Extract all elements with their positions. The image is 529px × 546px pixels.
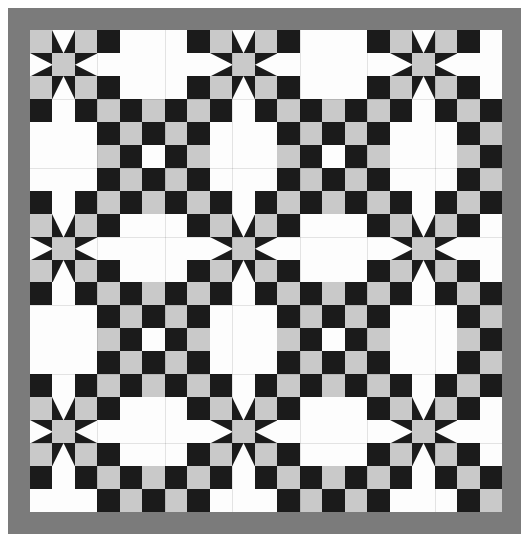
flying-geese-down: [232, 214, 255, 238]
patch-black: [165, 374, 188, 398]
flying-geese-down: [412, 214, 435, 238]
patch-white: [480, 53, 502, 77]
patch-black: [120, 374, 143, 398]
patch-gray: [345, 305, 368, 329]
patch-black: [367, 214, 390, 238]
patch-black: [367, 305, 390, 329]
patch-black: [165, 145, 188, 169]
patch-black: [142, 351, 165, 375]
flying-geese-up: [412, 260, 435, 284]
patch-white: [367, 53, 390, 77]
patch-gray: [390, 214, 413, 238]
patch-white: [300, 30, 323, 54]
flying-geese-left: [255, 420, 278, 444]
patch-white: [300, 237, 323, 261]
patch-black: [457, 489, 480, 512]
patch-white: [187, 237, 210, 261]
patch-white: [232, 305, 255, 329]
patch-gray: [480, 489, 502, 512]
patch-white: [210, 351, 233, 375]
flying-geese-left: [435, 237, 458, 261]
patch-white: [75, 305, 98, 329]
patch-black: [30, 282, 53, 306]
patch-white: [142, 328, 165, 352]
patch-black: [435, 466, 458, 490]
patch-white: [480, 397, 502, 421]
patch-black: [142, 122, 165, 146]
patch-white: [412, 191, 435, 215]
patch-gray: [255, 260, 278, 284]
patch-white: [142, 420, 165, 444]
patch-gray: [210, 214, 233, 238]
seam-line-vertical: [367, 30, 368, 512]
patch-white: [97, 53, 120, 77]
patch-white: [165, 397, 188, 421]
patch-white: [165, 214, 188, 238]
patch-black: [75, 282, 98, 306]
patch-gray: [97, 374, 120, 398]
patch-gray: [97, 328, 120, 352]
patch-black: [480, 328, 502, 352]
seam-line-horizontal: [30, 305, 502, 306]
flying-geese-left: [75, 237, 98, 261]
patch-black: [165, 99, 188, 123]
patch-white: [435, 328, 458, 352]
patch-black: [300, 191, 323, 215]
patch-gray: [322, 191, 345, 215]
patch-black: [457, 122, 480, 146]
patch-white: [412, 99, 435, 123]
patch-black: [345, 99, 368, 123]
flying-geese-up: [412, 443, 435, 467]
patch-gray: [165, 168, 188, 192]
patch-white: [52, 282, 75, 306]
patch-white: [345, 237, 368, 261]
patch-white: [232, 466, 255, 490]
patch-white: [52, 305, 75, 329]
patch-gray: [97, 282, 120, 306]
patch-black: [165, 328, 188, 352]
patch-gray: [367, 282, 390, 306]
patch-white: [255, 489, 278, 512]
patch-gray: [30, 30, 53, 54]
patch-white: [300, 443, 323, 467]
patch-white: [277, 420, 300, 444]
patch-black: [120, 99, 143, 123]
patch-gray: [435, 443, 458, 467]
patch-black: [187, 443, 210, 467]
patch-black: [390, 282, 413, 306]
patch-white: [232, 99, 255, 123]
patch-gray: [120, 351, 143, 375]
flying-geese-down: [412, 30, 435, 54]
patch-white: [345, 443, 368, 467]
patch-gray: [480, 122, 502, 146]
patch-white: [390, 122, 413, 146]
patch-white: [165, 76, 188, 100]
patch-white: [75, 351, 98, 375]
patch-black: [390, 99, 413, 123]
patch-white: [52, 351, 75, 375]
patch-white: [345, 420, 368, 444]
patch-black: [457, 305, 480, 329]
patch-black: [97, 397, 120, 421]
patch-gray: [255, 30, 278, 54]
patch-white: [30, 145, 53, 169]
patch-white: [345, 260, 368, 284]
patch-black: [255, 374, 278, 398]
patch-white: [232, 328, 255, 352]
seam-line-horizontal: [30, 443, 502, 444]
patch-black: [300, 145, 323, 169]
patch-black: [120, 466, 143, 490]
patch-black: [97, 76, 120, 100]
patch-white: [322, 328, 345, 352]
patch-gray: [75, 260, 98, 284]
patch-black: [345, 466, 368, 490]
patch-white: [390, 145, 413, 169]
patch-white: [390, 168, 413, 192]
patch-gray: [75, 30, 98, 54]
patch-white: [457, 53, 480, 77]
patch-white: [232, 191, 255, 215]
patch-black: [277, 76, 300, 100]
flying-geese-up: [232, 443, 255, 467]
patch-white: [52, 122, 75, 146]
patch-gray: [120, 489, 143, 512]
